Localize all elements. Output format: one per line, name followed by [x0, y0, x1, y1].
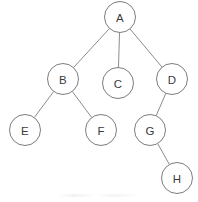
graph-node-f[interactable]: F: [86, 115, 117, 146]
graph-edge: [156, 93, 166, 116]
graph-edge: [34, 91, 53, 117]
graph-edge: [73, 28, 109, 67]
graph-node-e[interactable]: E: [10, 115, 41, 146]
node-label: A: [116, 12, 124, 24]
graph-edge: [118, 32, 119, 67]
tree-diagram: ABCDEFGH: [0, 0, 198, 202]
graph-node-g[interactable]: G: [135, 115, 166, 146]
graph-node-b[interactable]: B: [48, 64, 79, 95]
node-label: C: [114, 78, 123, 90]
graph-node-h[interactable]: H: [162, 163, 193, 194]
graph-edge: [130, 29, 162, 67]
node-label: D: [168, 74, 177, 86]
graph-node-a[interactable]: A: [105, 2, 136, 33]
node-label: G: [145, 125, 154, 137]
node-label: H: [173, 173, 182, 185]
graph-edge: [158, 144, 170, 165]
node-layer: ABCDEFGH: [10, 2, 193, 194]
graph-edge: [72, 91, 91, 117]
graph-svg: ABCDEFGH: [0, 0, 198, 202]
node-label: E: [21, 125, 29, 137]
node-label: F: [97, 125, 104, 137]
node-label: B: [59, 74, 67, 86]
graph-node-c[interactable]: C: [103, 68, 134, 99]
graph-node-d[interactable]: D: [157, 64, 188, 95]
